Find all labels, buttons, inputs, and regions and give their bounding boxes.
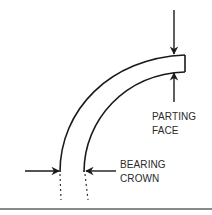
bearing-crown-label-line2: CROWN <box>120 172 166 186</box>
parting-face-label-line1: PARTING <box>152 110 196 124</box>
bearing-crown-label-line1: BEARING <box>120 158 166 172</box>
parting-face-label: PARTING FACE <box>152 110 196 138</box>
bearing-shell-drawing <box>0 0 212 215</box>
inner-arc-continuation <box>85 174 88 200</box>
outer-arc-continuation <box>60 174 61 200</box>
bottom-rule-divider <box>0 208 212 210</box>
bearing-crown-label: BEARING CROWN <box>120 158 166 186</box>
bearing-shell-diagram: PARTING FACE BEARING CROWN <box>0 0 212 215</box>
parting-face-label-line2: FACE <box>152 124 196 138</box>
